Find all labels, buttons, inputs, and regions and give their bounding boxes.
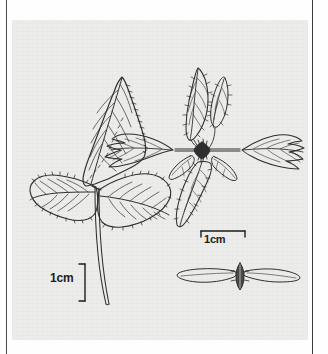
leaflet-terminal [83,77,146,186]
scale-bar-leaf-label: 1cm [50,272,73,284]
inflorescence-specimen [105,68,304,227]
page-rule-left [6,0,7,354]
scale-bar-leaf-mark [79,264,85,301]
scale-bar-fruit-label: 1cm [204,234,225,245]
illustration-plate: 1cm 1cm [12,20,308,340]
bract-lower-right [212,156,237,180]
fruit-wing-right [244,269,300,282]
leaflet-right [98,171,171,230]
winged-fruit-specimen [177,263,300,290]
page-rule-right [312,0,313,354]
bract-upper-right [207,77,232,148]
bract-lower-left [169,156,194,180]
leaflet-left [30,172,98,223]
bract-upper [183,68,212,149]
inflorescence-central-node [194,139,210,161]
bract-right [242,135,304,169]
botanical-drawing [12,20,308,340]
figure-root: 1cm 1cm [0,0,328,354]
